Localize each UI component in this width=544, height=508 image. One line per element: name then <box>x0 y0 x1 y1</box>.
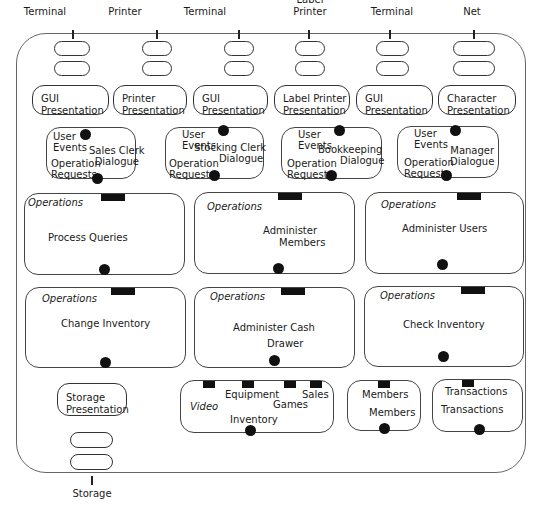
operation-name-line2: Members <box>279 237 325 248</box>
user-events-port <box>218 125 229 136</box>
external-storage-label: Storage <box>52 488 132 500</box>
external-label-printer-label-line2: Printer <box>270 6 350 18</box>
operations-label: Operations <box>381 199 436 210</box>
label-printer-presentation: Label Printer Presentation <box>274 85 350 115</box>
port-pill <box>142 41 172 56</box>
interface-port <box>242 381 254 388</box>
external-net-label: Net <box>432 6 512 18</box>
presentation-line1: GUI <box>365 93 432 105</box>
operations-label: Operations <box>210 291 265 302</box>
sales-label: Sales <box>302 389 329 400</box>
operation-name: Process Queries <box>48 232 128 243</box>
external-terminal-1-label: Terminal <box>5 6 85 18</box>
operations-label: Operations <box>207 201 262 212</box>
operation-name: Check Inventory <box>403 319 485 330</box>
user-events-label: UserEvents <box>414 128 448 150</box>
connector-tick <box>473 30 475 39</box>
character-presentation: Character Presentation <box>438 85 516 115</box>
presentation-line1: GUI <box>41 93 108 105</box>
presentation-line2: Presentation <box>365 105 432 117</box>
interface-port <box>203 381 215 388</box>
operation-requests-port <box>326 170 337 181</box>
operation-requests-port <box>92 173 103 184</box>
interface-port <box>278 193 302 200</box>
port-pill <box>376 41 409 56</box>
gui-presentation-2: GUI Presentation <box>193 85 268 115</box>
port-pill <box>142 61 172 76</box>
store-port <box>379 423 390 434</box>
interface-port <box>462 380 474 387</box>
external-terminal-3-label: Terminal <box>352 6 432 18</box>
storage-presentation: Storage Presentation <box>57 383 127 416</box>
presentation-line2: Presentation <box>66 404 126 416</box>
interface-port <box>461 287 485 294</box>
process-queries-operations: Operations Process Queries <box>24 193 185 275</box>
transactions-title-label: Transactions <box>441 404 503 415</box>
printer-presentation: Printer Presentation <box>113 85 187 115</box>
operation-name-line1: Administer <box>263 225 317 236</box>
operation-port <box>99 264 110 275</box>
port-pill <box>224 41 254 56</box>
user-events-port <box>334 125 345 136</box>
connector-tick <box>156 30 158 39</box>
port-pill <box>376 61 409 76</box>
administer-members-operations: Operations Administer Members <box>194 192 355 274</box>
gui-presentation-3: GUI Presentation <box>356 85 433 115</box>
presentation-line2: Presentation <box>122 105 186 117</box>
presentation-line2: Presentation <box>283 105 349 117</box>
connector-tick <box>238 30 240 39</box>
port-pill <box>54 61 90 76</box>
connector-tick <box>72 30 74 39</box>
change-inventory-operations: Operations Change Inventory <box>25 287 186 368</box>
interface-port <box>310 381 322 388</box>
operation-name: Change Inventory <box>61 318 150 329</box>
port-pill <box>54 41 90 56</box>
operation-name-line2: Drawer <box>267 338 303 349</box>
connector-tick <box>91 476 93 485</box>
port-pill <box>295 61 325 76</box>
gui-presentation-1: GUI Presentation <box>32 85 109 115</box>
interface-port <box>101 194 125 201</box>
operations-label: Operations <box>380 290 435 301</box>
presentation-line2: Presentation <box>202 105 267 117</box>
connector-tick <box>308 30 310 39</box>
interface-port <box>284 381 296 388</box>
games-label: Games <box>273 399 308 410</box>
external-printer-label: Printer <box>85 6 165 18</box>
user-events-port <box>80 129 91 140</box>
store-port <box>245 425 256 436</box>
operation-port <box>100 357 111 368</box>
operation-port <box>273 263 284 274</box>
connector-tick <box>389 30 391 39</box>
operation-name-line1: Administer Cash <box>233 322 315 333</box>
port-pill <box>70 454 113 470</box>
store-port <box>474 424 485 435</box>
presentation-line1: Storage <box>66 392 126 404</box>
members-top-label: Members <box>362 389 408 400</box>
operation-port <box>438 351 449 362</box>
presentation-line2: Presentation <box>41 105 108 117</box>
presentation-line1: Label Printer <box>283 93 349 105</box>
port-pill <box>453 61 495 76</box>
operations-label: Operations <box>42 293 97 304</box>
interface-port <box>378 381 390 388</box>
port-pill <box>295 41 325 56</box>
port-pill <box>224 61 254 76</box>
operations-label: Operations <box>28 197 83 208</box>
interface-port <box>457 193 481 200</box>
port-pill <box>70 432 113 448</box>
equipment-label: Equipment <box>225 389 279 400</box>
operation-name: Administer Users <box>402 223 487 234</box>
operation-port <box>437 259 448 270</box>
user-events-port <box>450 125 461 136</box>
external-terminal-2-label: Terminal <box>165 6 245 18</box>
video-label: Video <box>190 401 218 412</box>
presentation-line1: Printer <box>122 93 186 105</box>
operation-port <box>269 355 280 366</box>
inventory-label: Inventory <box>230 414 278 425</box>
operation-requests-port <box>209 170 220 181</box>
port-pill <box>453 41 495 56</box>
dialogue-name: ManagerDialogue <box>450 145 494 167</box>
operation-requests-port <box>441 170 452 181</box>
interface-port <box>281 288 305 295</box>
